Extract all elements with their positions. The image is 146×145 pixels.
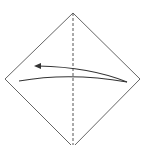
- origami-diagram: [0, 0, 146, 145]
- diagram-svg: [0, 0, 146, 145]
- arrowhead-icon: [34, 63, 41, 69]
